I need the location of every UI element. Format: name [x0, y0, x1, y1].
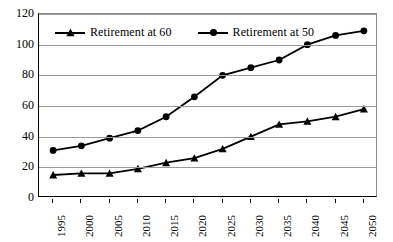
- legend-entry-retirement-60: Retirement at 60: [55, 25, 172, 40]
- x-axis-tick: [193, 199, 194, 203]
- x-axis-tick: [335, 199, 336, 203]
- y-axis-tick-label: 80: [22, 68, 34, 80]
- legend-label-retirement-50: Retirement at 50: [233, 25, 315, 40]
- gridline: [39, 137, 376, 138]
- legend-entry-retirement-50: Retirement at 50: [198, 25, 315, 40]
- x-axis-tick-label: 2025: [226, 215, 237, 237]
- triangle-marker-icon: [55, 27, 85, 38]
- series-line-1: [53, 109, 364, 175]
- plot-area: [38, 13, 377, 197]
- y-axis-tick-label: 20: [22, 160, 34, 172]
- x-axis-tick: [278, 199, 279, 203]
- y-axis-tick-label: 60: [22, 99, 34, 111]
- gridline: [39, 167, 376, 168]
- x-axis-tick: [80, 199, 81, 203]
- x-axis-tick: [306, 199, 307, 203]
- series-line-2: [53, 31, 364, 151]
- y-axis-tick-label: 120: [16, 7, 34, 19]
- x-axis-tick-label: 2050: [367, 215, 378, 237]
- x-axis-tick-label: 2035: [282, 215, 293, 237]
- x-axis-labels: 1995200020052010201520202025203020352040…: [38, 199, 377, 242]
- legend-label-retirement-60: Retirement at 60: [90, 25, 172, 40]
- data-point-marker: [78, 142, 85, 149]
- y-axis-tick-label: 0: [28, 191, 34, 203]
- data-point-marker: [134, 127, 141, 134]
- x-axis-tick: [137, 199, 138, 203]
- x-axis-tick-label: 2005: [113, 215, 124, 237]
- data-point-marker: [191, 93, 198, 100]
- data-point-marker: [360, 27, 367, 34]
- x-axis-tick: [165, 199, 166, 203]
- y-axis-tick-label: 100: [16, 38, 34, 50]
- x-axis-tick-label: 1995: [56, 215, 67, 237]
- gridline: [39, 45, 376, 46]
- data-point-marker: [276, 57, 283, 64]
- x-axis-tick-label: 2040: [310, 215, 321, 237]
- gridline: [39, 75, 376, 76]
- data-point-marker: [332, 32, 339, 39]
- data-point-marker: [163, 113, 170, 120]
- x-axis-tick-label: 2000: [84, 215, 95, 237]
- x-axis-tick: [222, 199, 223, 203]
- data-point-marker: [247, 64, 254, 71]
- x-axis-tick: [363, 199, 364, 203]
- line-chart: 020406080100120 199520002005201020152020…: [0, 0, 393, 242]
- x-axis-tick-label: 2045: [339, 215, 350, 237]
- circle-marker-icon: [198, 27, 228, 38]
- x-axis-tick-label: 2015: [169, 215, 180, 237]
- gridline: [39, 14, 376, 15]
- gridline: [39, 106, 376, 107]
- y-axis-tick-label: 40: [22, 130, 34, 142]
- data-point-marker: [50, 147, 57, 154]
- x-axis-tick: [109, 199, 110, 203]
- x-axis-tick-label: 2030: [254, 215, 265, 237]
- x-axis-tick-label: 2010: [141, 215, 152, 237]
- y-axis-labels: 020406080100120: [0, 0, 36, 242]
- chart-legend: Retirement at 60 Retirement at 50: [55, 25, 314, 40]
- x-axis-tick: [250, 199, 251, 203]
- x-axis-tick-label: 2020: [197, 215, 208, 237]
- x-axis-tick: [52, 199, 53, 203]
